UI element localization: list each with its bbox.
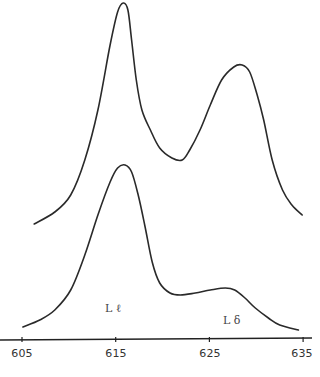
bottom-spectrum-curve [23, 165, 299, 330]
x-tick-label-635: 635 [291, 347, 313, 360]
x-tick-label-605: 605 [11, 347, 33, 360]
x-axis [0, 338, 312, 340]
top-spectrum-curve [34, 3, 302, 224]
label-l-ell: L ℓ [105, 302, 121, 315]
x-tick-label-625: 625 [199, 347, 221, 360]
spectrum-chart [0, 0, 320, 377]
x-tick-label-615: 615 [105, 347, 127, 360]
label-l-delta: L δ [223, 314, 240, 327]
